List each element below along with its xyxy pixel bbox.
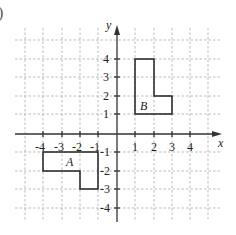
coordinate-plane: ) x y -4 -3 -2 -1 1 [0, 0, 236, 235]
shape-a-label: A [65, 155, 74, 169]
svg-text:1: 1 [132, 140, 138, 154]
svg-text:1: 1 [103, 107, 109, 121]
svg-text:4: 4 [103, 52, 109, 66]
part-label: ) [0, 4, 3, 22]
svg-text:-4: -4 [100, 201, 110, 215]
shape-b-label: B [140, 99, 148, 113]
svg-text:-2: -2 [100, 164, 110, 178]
axes: x y [15, 18, 224, 222]
svg-text:2: 2 [151, 140, 157, 154]
svg-text:3: 3 [103, 70, 109, 84]
y-arrow-icon [114, 25, 120, 35]
svg-text:2: 2 [103, 89, 109, 103]
svg-text:-3: -3 [100, 182, 110, 196]
x-axis-label: x [217, 136, 224, 150]
svg-text:3: 3 [169, 140, 175, 154]
y-axis-label: y [105, 18, 112, 32]
svg-text:-1: -1 [100, 145, 110, 159]
svg-text:4: 4 [187, 140, 193, 154]
